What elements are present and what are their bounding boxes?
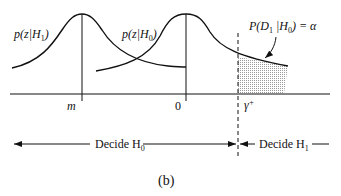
annotation-alpha: P(D1 |H0) = α	[249, 20, 316, 35]
tick-label-m: m	[67, 100, 76, 112]
alpha-shaded-region	[238, 57, 288, 94]
decide-h0-label: Decide H0	[95, 138, 145, 153]
tick-label-zero: 0	[175, 100, 181, 112]
decide-h1-label: Decide H1	[259, 138, 309, 153]
annotation-arrow	[265, 37, 276, 58]
label-p-z-h0: p(z|H0)	[122, 28, 157, 43]
label-p-z-h1: p(z|H1)	[14, 28, 49, 43]
threshold-label: γ+	[244, 99, 254, 111]
figure-caption: (b)	[158, 174, 174, 188]
